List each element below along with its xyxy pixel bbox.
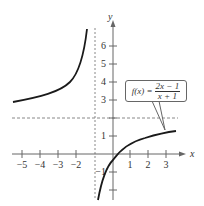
- x-tick-label: −3: [53, 159, 64, 170]
- function-label-box: f(x) = 2x − 1 x + 1: [125, 80, 187, 102]
- plot-area: −5 −4 −3 −2 1 2 3 6 5 4 3 1 −1 x y: [0, 0, 204, 206]
- function-numerator: 2x − 1: [155, 82, 181, 92]
- x-tick-label: 1: [128, 159, 133, 170]
- x-tick-label: −4: [35, 159, 46, 170]
- y-axis-label: y: [107, 11, 113, 22]
- callout-pointer: [152, 101, 165, 130]
- function-graph: −5 −4 −3 −2 1 2 3 6 5 4 3 1 −1 x y f(x) …: [0, 0, 204, 206]
- function-denominator: x + 1: [158, 92, 177, 101]
- y-tick-label: 3: [101, 94, 106, 105]
- x-tick-label: 2: [146, 159, 151, 170]
- x-axis-label: x: [189, 148, 195, 159]
- y-tick-label: 1: [101, 130, 106, 141]
- curve-left-branch: [13, 29, 87, 102]
- y-tick-label: 5: [101, 58, 106, 69]
- y-tick-label: 4: [101, 76, 106, 87]
- y-tick-label: 6: [101, 40, 106, 51]
- function-lhs: f(x) =: [132, 86, 153, 96]
- x-tick-label: 3: [164, 159, 169, 170]
- x-axis-arrow: [179, 152, 186, 157]
- function-fraction: 2x − 1 x + 1: [155, 82, 181, 101]
- x-tick-label: −5: [17, 159, 28, 170]
- x-tick-label: −2: [71, 159, 82, 170]
